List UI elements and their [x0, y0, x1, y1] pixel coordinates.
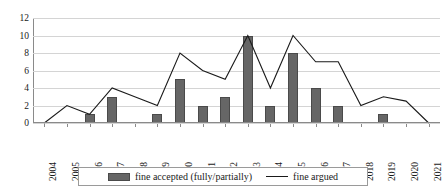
x-axis-tick [44, 124, 45, 127]
x-axis-tick [338, 124, 339, 127]
x-axis-tick [406, 124, 407, 127]
y-axis-tick-label: 8 [0, 48, 29, 58]
chart-legend: fine accepted (fully/partially) fine arg… [78, 167, 368, 186]
x-axis-tick-label: 2021 [433, 162, 443, 181]
x-axis-tick [203, 124, 204, 127]
x-axis-tick [293, 124, 294, 127]
x-axis-tick-label: 2019 [387, 162, 397, 181]
x-axis-tick [157, 124, 158, 127]
y-axis-tick-label: 4 [0, 83, 29, 93]
y-axis-tick-label: 10 [0, 31, 29, 41]
legend-label-fine-argued: fine argued [293, 171, 338, 182]
plot-area [33, 18, 440, 123]
x-axis-tick [225, 124, 226, 127]
x-axis-tick [112, 124, 113, 127]
x-axis-tick [135, 124, 136, 127]
y-axis-tick-label: 0 [0, 118, 29, 128]
x-axis-tick-label: 2020 [410, 162, 420, 181]
line-series-fine-argued [33, 18, 440, 123]
y-axis-labels: 024681012 [0, 0, 29, 191]
x-axis-tick [429, 124, 430, 127]
bar-swatch-icon [108, 173, 130, 181]
x-axis-tick [270, 124, 271, 127]
x-axis-tick-label: 2004 [48, 162, 58, 181]
y-axis-tick-label: 6 [0, 66, 29, 76]
x-axis-labels: 2004200520062007200820092010201120122013… [33, 124, 440, 164]
x-axis-tick [316, 124, 317, 127]
line-swatch-icon [266, 176, 288, 177]
legend-entry-fine-accepted: fine accepted (fully/partially) [108, 171, 252, 182]
x-axis-tick [180, 124, 181, 127]
x-axis-line [33, 122, 440, 123]
x-axis-tick [90, 124, 91, 127]
y-axis-tick-label: 2 [0, 101, 29, 111]
x-axis-tick [248, 124, 249, 127]
chart-container: 024681012 200420052006200720082009201020… [0, 0, 446, 191]
legend-label-fine-accepted: fine accepted (fully/partially) [135, 171, 252, 182]
legend-entry-fine-argued: fine argued [266, 171, 338, 182]
x-axis-tick [67, 124, 68, 127]
x-axis-tick [361, 124, 362, 127]
x-axis-tick [383, 124, 384, 127]
y-axis-tick-label: 12 [0, 13, 29, 23]
